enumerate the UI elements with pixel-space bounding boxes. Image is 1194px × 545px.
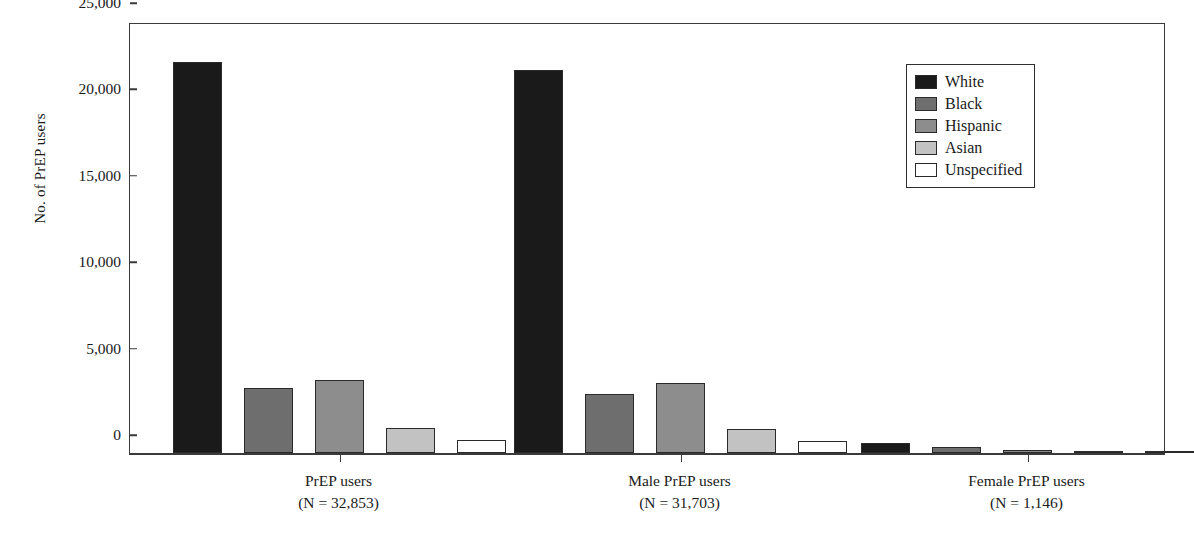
y-axis-tick-mark [130,175,137,177]
legend-item: Hispanic [915,115,1022,137]
bar [1074,451,1123,453]
legend-item: White [915,71,1022,93]
legend-swatch [915,163,937,177]
y-axis-tick-mark [130,261,137,263]
bar [457,440,506,453]
bar [932,447,981,453]
y-axis-tick: 20,000 [78,80,130,98]
legend-swatch [915,75,937,89]
x-axis-group-label: Male PrEP users(N = 31,703) [628,470,731,514]
group-label-count: (N = 32,853) [298,492,379,514]
y-axis-tick-mark [130,2,137,4]
legend-label: Unspecified [945,162,1022,178]
y-axis-tick-label: 0 [113,426,130,444]
x-axis-tick-mark [681,453,683,462]
legend-swatch [915,119,937,133]
bar [798,441,847,453]
legend-item: Unspecified [915,159,1022,181]
bar [514,70,563,453]
group-label-name: PrEP users [305,472,372,489]
legend-label: Asian [945,140,982,156]
y-axis-tick-label: 5,000 [86,340,130,358]
group-label-count: (N = 31,703) [628,492,731,514]
y-axis-tick: 5,000 [86,340,130,358]
y-axis-tick-label: 20,000 [78,80,130,98]
bar [727,429,776,453]
chart-legend: WhiteBlackHispanicAsianUnspecified [906,64,1035,188]
x-axis-group-label: Female PrEP users(N = 1,146) [968,470,1085,514]
x-axis-group-label: PrEP users(N = 32,853) [298,470,379,514]
y-axis-tick: 25,000 [78,0,130,12]
y-axis-tick: 0 [113,426,130,444]
group-label-name: Female PrEP users [968,472,1085,489]
x-axis-tick-mark [340,453,342,462]
bar [585,394,634,453]
bar [244,388,293,453]
y-axis-tick-mark [130,89,137,91]
legend-label: Hispanic [945,118,1002,134]
legend-item: Black [915,93,1022,115]
y-axis-tick-mark [130,434,137,436]
legend-label: White [945,74,984,90]
chart-figure: No. of PrEP users 05,00010,00015,00020,0… [0,0,1194,545]
bar [861,443,910,453]
bar [1145,451,1194,453]
legend-swatch [915,97,937,111]
group-label-name: Male PrEP users [628,472,731,489]
y-axis-tick: 10,000 [78,253,130,271]
legend-label: Black [945,96,982,112]
y-axis-tick-mark [130,348,137,350]
y-axis-label: No. of PrEP users [32,69,49,269]
x-axis-tick-mark [1028,453,1030,462]
group-label-count: (N = 1,146) [968,492,1085,514]
y-axis-tick-label: 15,000 [78,167,130,185]
bar [386,428,435,453]
legend-item: Asian [915,137,1022,159]
bar [315,380,364,453]
y-axis-tick-label: 10,000 [78,253,130,271]
bar [173,62,222,453]
y-axis-tick-label: 25,000 [78,0,130,12]
legend-swatch [915,141,937,155]
bar [656,383,705,453]
y-axis-tick: 15,000 [78,167,130,185]
